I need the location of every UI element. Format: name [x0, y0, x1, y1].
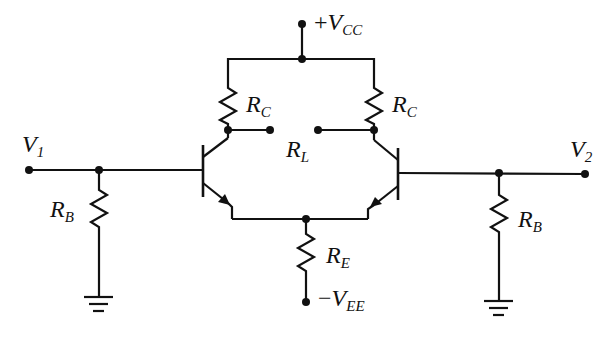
ground-left [84, 297, 113, 311]
resistor-re [298, 219, 314, 302]
label-rb-right: RB [518, 207, 542, 235]
emitter-junction [302, 215, 310, 223]
differential-amplifier-schematic: +VCC RC RC RL V1 V2 RB RB RE −VEE [0, 0, 608, 338]
input-v2-wire [398, 173, 585, 174]
label-v2: V2 [570, 137, 592, 165]
rl-terminal-right [314, 126, 322, 134]
v2-terminal [581, 170, 589, 178]
label-v1: V1 [22, 132, 44, 160]
resistor-rb-left [91, 170, 107, 296]
base-junction-left [95, 166, 103, 174]
resistor-rc-right [366, 84, 382, 130]
vcc-terminal [298, 20, 306, 28]
label-rc-right: RC [392, 92, 417, 120]
label-rb-left: RB [50, 197, 74, 225]
label-rl: RL [286, 137, 309, 165]
collector-junction-left [224, 126, 232, 134]
vee-terminal [302, 298, 310, 306]
label-vee: −VEE [318, 286, 365, 314]
transistor-q1 [203, 130, 232, 219]
resistor-rc-left [220, 84, 236, 130]
base-junction-right [495, 169, 503, 177]
circuit-drawing [0, 0, 608, 338]
label-re: RE [326, 243, 350, 271]
ground-right [484, 301, 513, 315]
collector-junction-right [370, 126, 378, 134]
emitter-arrow-q2 [370, 197, 382, 207]
v1-terminal [25, 166, 33, 174]
rl-terminal-left [266, 126, 274, 134]
label-rc-left: RC [246, 92, 271, 120]
resistor-rb-right [491, 173, 507, 300]
top-rail-junction [298, 55, 306, 63]
label-vcc: +VCC [314, 10, 362, 38]
